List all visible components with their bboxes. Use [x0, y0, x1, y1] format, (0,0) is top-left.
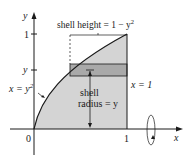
line-label: x = 1: [130, 79, 152, 90]
shell-height-label: shell height = 1 − y2: [57, 18, 134, 30]
origin-label: 0: [26, 133, 31, 144]
x-axis-label: x: [173, 132, 179, 143]
y-tick-label-1: 1: [24, 29, 29, 40]
shell-radius-label-2: radius = y: [78, 98, 118, 109]
shell-radius-label-1: shell: [80, 87, 99, 98]
y-axis-arrow-icon: [32, 12, 37, 19]
y-tick-label-y: y: [22, 64, 28, 75]
x-axis-arrow-icon: [176, 127, 183, 132]
rotation-ellipse-icon: [147, 115, 155, 145]
x-tick-label-1: 1: [124, 133, 129, 144]
shell-method-diagram: y 1 y 0 1 x shell height = 1 − y2 x = y2…: [0, 0, 191, 165]
shaded-region: [34, 34, 127, 129]
curve-label: x = y2: [8, 82, 34, 94]
shell-band: [70, 64, 127, 76]
y-axis-label: y: [22, 10, 28, 21]
